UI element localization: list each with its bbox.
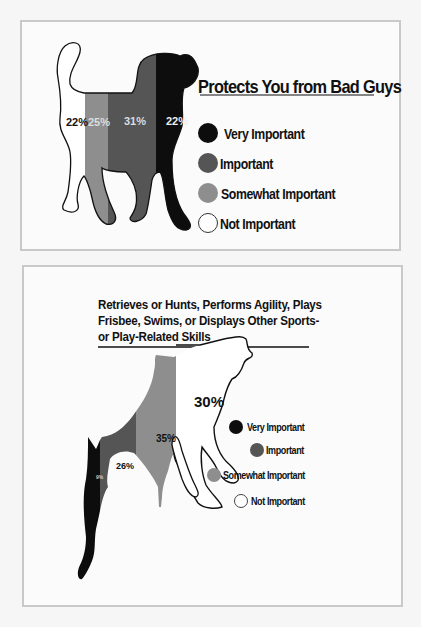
label-somewhat-2: 35%: [156, 433, 176, 444]
chart-panel-sports: Retrieves or Hunts, Performs Agility, Pl…: [22, 265, 403, 607]
label-not-important-1: 22%: [66, 116, 88, 128]
legend-item-very-important: Very Important: [198, 118, 360, 148]
label-very-important-2: 9%: [96, 474, 104, 480]
legend-swatch-white-icon: [234, 494, 248, 508]
legend-item-important: Important: [250, 443, 312, 457]
legend-item-somewhat-important: Somewhat Important: [198, 178, 360, 208]
label-very-important-1: 22%: [166, 115, 188, 127]
legend-item-important: Important: [198, 148, 360, 178]
legend-1: Very Important Important Somewhat Import…: [198, 118, 360, 238]
legend-swatch-gray-icon: [198, 183, 218, 203]
legend-swatch-gray-icon: [207, 468, 221, 482]
label-important-2: 26%: [116, 461, 134, 471]
chart-panel-protects: 22% 25% 31% 22% Protects You from Bad Gu…: [20, 20, 401, 251]
legend-item-somewhat-important: Somewhat Important: [207, 468, 323, 482]
legend-swatch-dark-gray-icon: [250, 443, 264, 457]
legend-swatch-dark-gray-icon: [198, 153, 218, 173]
legend-item-very-important: Very Important: [229, 420, 317, 434]
label-somewhat-1: 25%: [88, 116, 110, 128]
legend-swatch-black-icon: [229, 420, 243, 434]
legend-item-not-important: Not Important: [234, 494, 317, 508]
legend-swatch-black-icon: [198, 123, 218, 143]
label-important-1: 31%: [124, 115, 146, 127]
dog-silhouette-chart-2: 9% 26% 35% 30%: [24, 267, 405, 609]
legend-item-not-important: Not Important: [198, 208, 360, 238]
label-not-important-2: 30%: [194, 393, 224, 410]
chart-title-1: Protects You from Bad Guys: [198, 76, 401, 98]
legend-swatch-white-icon: [198, 213, 218, 233]
